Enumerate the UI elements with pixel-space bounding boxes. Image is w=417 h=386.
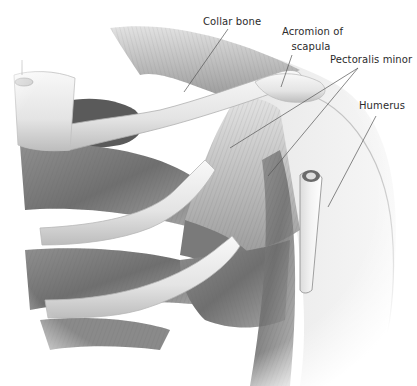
label-acromion-line2: scapula xyxy=(282,41,340,53)
shoulder-anatomy-illustration: Collar bone Acromion of scapula Pectoral… xyxy=(0,0,417,386)
label-acromion-line1: Acromion of xyxy=(282,26,340,38)
label-collar-bone: Collar bone xyxy=(203,16,261,28)
label-humerus: Humerus xyxy=(359,100,405,112)
label-pectoralis-minor: Pectoralis minor xyxy=(330,54,412,66)
label-acromion-of-scapula: Acromion of scapula xyxy=(282,26,340,53)
